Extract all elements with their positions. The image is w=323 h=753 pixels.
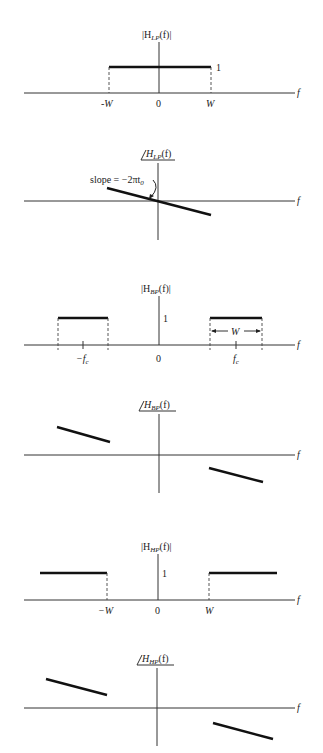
f-axis-label: f xyxy=(297,339,301,350)
level-label: 1 xyxy=(162,568,167,579)
level-label: 1 xyxy=(163,313,168,324)
f-axis-label: f xyxy=(297,87,301,98)
f-axis-label: f xyxy=(297,702,301,713)
plot-bandpass-magnitude: f |HBP(f)| 1 W −fc 0 fc xyxy=(24,283,301,366)
tick-label-neg-fc: −fc xyxy=(76,353,90,366)
plot-lowpass-magnitude: f |HLP(f)| 1 -W 0 W xyxy=(24,29,301,109)
plot-lowpass-phase: f HLP(f) slope = −2πt0 xyxy=(24,148,301,240)
level-label: 1 xyxy=(216,62,221,73)
tick-neg-w: −W xyxy=(98,605,115,616)
tick-neg-w: -W xyxy=(101,98,114,109)
tick-zero: 0 xyxy=(155,605,160,616)
phase-segment-left xyxy=(46,679,107,695)
plot-title: |HHP(f)| xyxy=(141,541,172,554)
phase-segment-right xyxy=(213,723,273,739)
f-axis-label: f xyxy=(297,594,301,605)
tick-zero: 0 xyxy=(156,98,161,109)
plot-title: |HLP(f)| xyxy=(142,29,171,42)
f-axis-label: f xyxy=(297,195,301,206)
tick-label-fc: fc xyxy=(233,353,240,366)
tick-w: W xyxy=(206,98,216,109)
plot-highpass-phase: f HHP(f) xyxy=(24,653,301,746)
annotation-arrow-icon xyxy=(151,180,156,197)
slope-annotation: slope = −2πt0 xyxy=(90,174,144,187)
filter-diagrams: f |HLP(f)| 1 -W 0 W f HLP(f) slope = −2π… xyxy=(0,0,323,753)
bandwidth-label: W xyxy=(231,326,241,337)
plot-title: HLP(f) xyxy=(145,148,171,161)
tick-label-zero: 0 xyxy=(156,353,161,364)
plot-highpass-magnitude: f |HHP(f)| 1 −W 0 W xyxy=(24,541,301,616)
plot-title: |HBP(f)| xyxy=(141,283,171,296)
plot-title: HHP(f) xyxy=(141,653,169,666)
f-axis-label: f xyxy=(297,449,301,460)
plot-title: HBP(f) xyxy=(143,399,170,412)
phase-segment-right xyxy=(209,468,263,482)
tick-w: W xyxy=(205,605,215,616)
phase-segment-left xyxy=(57,427,110,442)
plot-bandpass-phase: f HBP(f) xyxy=(24,399,301,493)
